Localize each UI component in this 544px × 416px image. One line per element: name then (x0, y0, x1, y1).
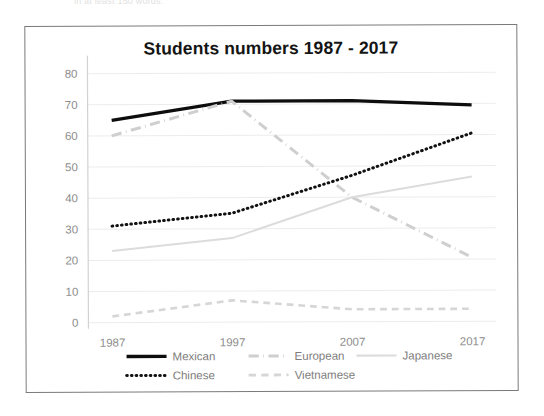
series-line-european (112, 100, 473, 259)
series-line-japanese (112, 176, 472, 251)
line-chart: 01020304050607080 1987199720072017 Mexic… (25, 25, 519, 394)
legend-label-mexican: Mexican (173, 350, 216, 362)
y-tick-label: 40 (65, 192, 78, 204)
y-tick-label: 0 (72, 317, 78, 329)
page-root: in at least 150 words. Students numbers … (0, 0, 544, 416)
x-tick-label: 1997 (220, 336, 246, 348)
series-line-mexican (112, 100, 472, 120)
y-tick-label: 70 (65, 99, 78, 111)
series-line-chinese (112, 133, 472, 226)
y-tick-label: 30 (65, 223, 78, 235)
y-tick-label: 50 (65, 161, 78, 173)
legend-label-european: European (295, 350, 345, 362)
x-axis-tick-labels: 1987199720072017 (100, 335, 486, 348)
y-tick-label: 80 (65, 68, 78, 80)
y-tick-label: 60 (65, 130, 78, 142)
legend-label-chinese: Chinese (173, 369, 215, 381)
gridlines (87, 72, 496, 323)
y-tick-label: 10 (65, 286, 78, 298)
series-line-vietnamese (112, 299, 472, 316)
x-tick-label: 2007 (340, 336, 366, 348)
chart-legend: MexicanEuropeanJapaneseChineseVietnamese (127, 349, 453, 381)
data-series (112, 100, 473, 316)
x-tick-label: 1987 (100, 337, 126, 349)
y-axis-line (87, 56, 88, 329)
legend-label-japanese: Japanese (403, 349, 453, 361)
chart-frame: Students numbers 1987 - 2017 01020304050… (24, 24, 518, 393)
scan-header-text: in at least 150 words. (74, 0, 163, 6)
y-tick-label: 20 (65, 254, 78, 266)
y-axis-tick-labels: 01020304050607080 (65, 68, 79, 329)
x-tick-label: 2017 (460, 335, 486, 347)
legend-label-vietnamese: Vietnamese (295, 369, 356, 381)
